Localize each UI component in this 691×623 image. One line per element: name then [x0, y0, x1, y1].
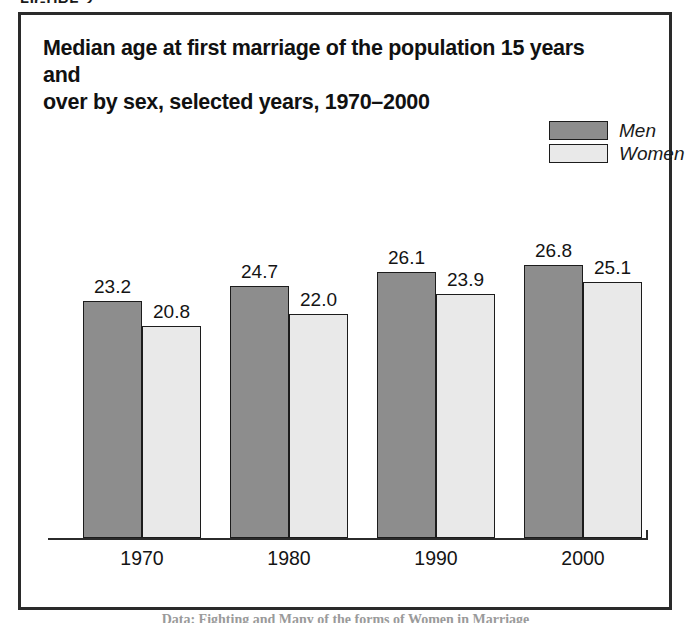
- legend-item-women: Women: [549, 142, 684, 165]
- bar-group-1980: 24.7 22.0: [230, 286, 348, 538]
- bar-men-1980: [230, 286, 289, 538]
- x-axis-label-1990: 1990: [376, 547, 496, 570]
- plot-area: 23.2 20.8 24.7 22.0 26.1: [48, 195, 648, 540]
- bar-men-2000: [524, 265, 583, 538]
- bar-value-women-1970: 20.8: [153, 301, 190, 323]
- bar-women-1970: [142, 326, 201, 538]
- bar-men-1970: [83, 301, 142, 538]
- bar-women-1990: [436, 294, 495, 538]
- source-note: Data: Fighting and Many of the forms of …: [0, 612, 691, 623]
- bar-value-women-1990: 23.9: [447, 269, 484, 291]
- bar-wrap-women-1970: 20.8: [142, 326, 201, 538]
- bar-wrap-women-1980: 22.0: [289, 314, 348, 538]
- bar-wrap-men-1980: 24.7: [230, 286, 289, 538]
- bar-value-men-1970: 23.2: [94, 276, 131, 298]
- bar-group-1970: 23.2 20.8: [83, 301, 201, 538]
- bar-value-men-2000: 26.8: [535, 240, 572, 262]
- chart-legend: Men Women: [549, 119, 684, 165]
- bar-group-2000: 26.8 25.1: [524, 265, 642, 538]
- bar-wrap-men-2000: 26.8: [524, 265, 583, 538]
- bar-men-1990: [377, 272, 436, 538]
- x-axis-label-1980: 1980: [229, 547, 349, 570]
- x-axis-tick-right: [646, 530, 648, 540]
- legend-swatch-men-icon: [549, 121, 608, 140]
- bar-wrap-men-1970: 23.2: [83, 301, 142, 538]
- bar-wrap-men-1990: 26.1: [377, 272, 436, 538]
- x-axis-label-1970: 1970: [82, 547, 202, 570]
- figure-frame: Median age at first marriage of the popu…: [18, 12, 672, 610]
- legend-label-women: Women: [619, 144, 684, 163]
- legend-swatch-women-icon: [549, 144, 608, 163]
- x-axis-label-2000: 2000: [523, 547, 643, 570]
- bar-value-women-2000: 25.1: [594, 257, 631, 279]
- legend-item-men: Men: [549, 119, 684, 142]
- bar-value-women-1980: 22.0: [300, 289, 337, 311]
- x-axis-baseline: [48, 538, 648, 540]
- bar-wrap-women-1990: 23.9: [436, 294, 495, 538]
- bar-women-1980: [289, 314, 348, 538]
- bar-value-men-1990: 26.1: [388, 247, 425, 269]
- legend-label-men: Men: [619, 121, 656, 140]
- bar-value-men-1980: 24.7: [241, 261, 278, 283]
- bar-women-2000: [583, 282, 642, 538]
- chart-title: Median age at first marriage of the popu…: [43, 35, 603, 116]
- bar-group-1990: 26.1 23.9: [377, 272, 495, 538]
- figure-caption: FIGURE 2.: [20, 0, 98, 3]
- bar-wrap-women-2000: 25.1: [583, 282, 642, 538]
